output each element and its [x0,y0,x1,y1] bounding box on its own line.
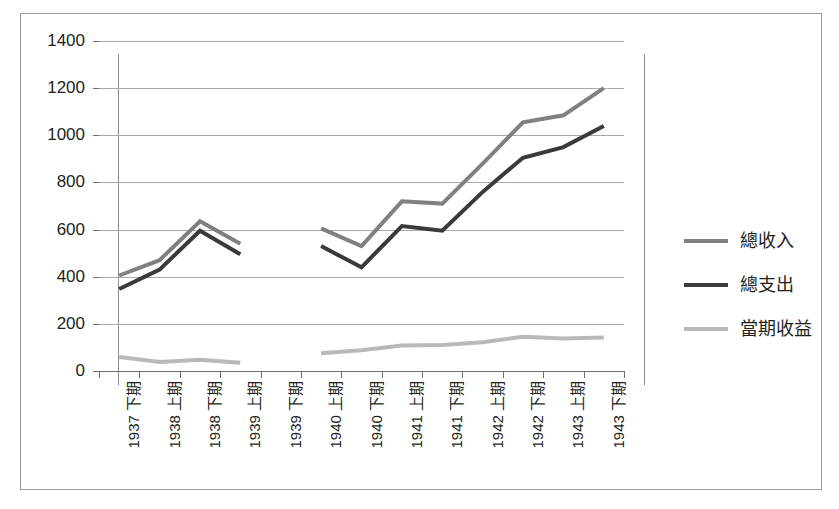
legend-label-0: 總收入 [740,232,794,250]
legend-item-1[interactable]: 總支出 [684,263,834,307]
legend-swatch-2 [684,327,728,331]
legend-swatch-0 [684,239,728,243]
legend-item-2[interactable]: 當期收益 [684,307,834,351]
chart-legend: 總收入總支出當期收益 [684,219,834,351]
series-line-0-seg-1 [321,88,604,246]
legend-label-1: 總支出 [740,276,794,294]
series-line-2-seg-0 [119,357,240,363]
series-line-2-seg-1 [321,337,604,354]
legend-label-2: 當期收益 [740,320,812,338]
legend-swatch-1 [684,283,728,287]
figure-frame: 0200400600800100012001400 1937 下期1938 上期… [20,13,822,490]
chart-page: 0200400600800100012001400 1937 下期1938 上期… [0,0,839,509]
legend-item-0[interactable]: 總收入 [684,219,834,263]
